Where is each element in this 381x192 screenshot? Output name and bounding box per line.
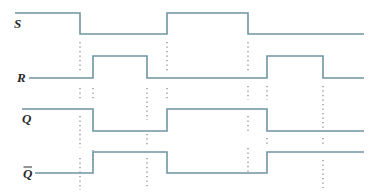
signal-labels: SRQQ [14, 16, 33, 181]
signal-label-q: Q [22, 111, 32, 126]
signal-label-r: R [16, 70, 26, 85]
timing-markers [80, 42, 323, 190]
waveform-s [15, 13, 364, 34]
waveform-q [22, 109, 364, 131]
timing-diagram: SRQQ [0, 0, 381, 192]
signal-waveforms [15, 13, 364, 173]
signal-label-s: S [14, 16, 21, 31]
timing-diagram-canvas: SRQQ [0, 0, 381, 192]
signal-label-q-bar: Q [23, 166, 33, 181]
waveform-r [29, 56, 364, 78]
waveform-q-bar [35, 152, 364, 173]
